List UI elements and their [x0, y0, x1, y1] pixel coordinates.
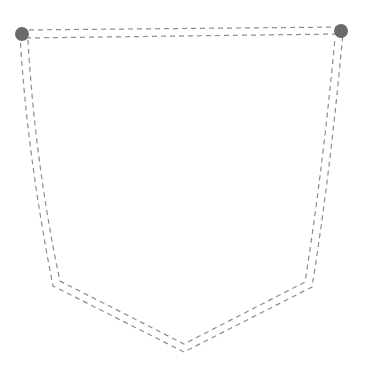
outer-stitch-line — [20, 32, 343, 352]
top-inner-stitch-line — [26, 34, 337, 38]
pocket-diagram — [0, 0, 365, 373]
left-corner-dot-icon — [15, 27, 29, 41]
top-outer-stitch-line — [20, 27, 343, 30]
inner-stitch-line — [28, 38, 335, 344]
right-corner-dot-icon — [334, 24, 348, 38]
